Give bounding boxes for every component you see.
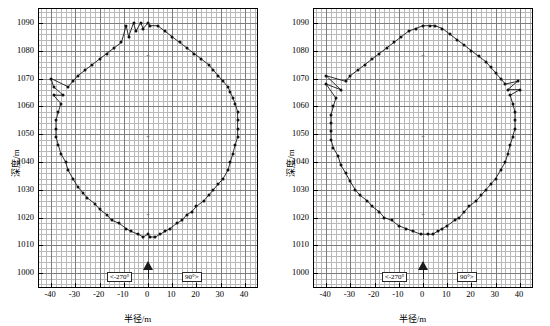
data-point xyxy=(117,222,120,225)
x-tick-mark xyxy=(447,283,448,287)
x-tick-label: 30 xyxy=(490,289,499,299)
data-point xyxy=(470,49,473,52)
data-point xyxy=(339,88,342,91)
data-point xyxy=(330,138,333,141)
y-tick-label: 1020 xyxy=(17,212,34,222)
data-point xyxy=(212,69,215,72)
plot-area: <-270°90°>+++ xyxy=(313,8,533,288)
x-tick-mark xyxy=(350,283,351,287)
data-point xyxy=(412,230,415,233)
y-tick-mark xyxy=(314,190,318,191)
data-point xyxy=(378,52,381,55)
data-point xyxy=(52,85,55,88)
data-point xyxy=(422,24,425,27)
data-point xyxy=(366,199,369,202)
data-point xyxy=(480,194,483,197)
x-tick-label: -30 xyxy=(344,289,355,299)
y-tick-mark xyxy=(39,23,43,24)
data-point xyxy=(458,216,461,219)
x-tick-mark xyxy=(124,283,125,287)
x-tick-label: 20 xyxy=(191,289,200,299)
data-point xyxy=(93,202,96,205)
data-point xyxy=(120,41,123,44)
plot-area: <-270°90°>+++ xyxy=(38,8,258,288)
x-tick-label: 10 xyxy=(442,289,451,299)
data-point xyxy=(234,144,237,147)
y-tick-label: 1090 xyxy=(17,17,34,27)
y-tick-label: 1090 xyxy=(292,17,309,27)
data-point xyxy=(62,94,65,97)
y-tick-mark xyxy=(39,190,43,191)
data-point xyxy=(132,21,135,24)
x-tick-mark xyxy=(172,283,173,287)
data-point xyxy=(494,71,497,74)
x-tick-label: 10 xyxy=(167,289,176,299)
figure-container: <-270°90°>+++100010101020103010401050106… xyxy=(0,0,550,326)
data-point xyxy=(55,135,58,138)
data-point xyxy=(55,127,58,130)
x-tick-label: 40 xyxy=(515,289,524,299)
data-point xyxy=(127,35,130,38)
x-tick-mark xyxy=(326,283,327,287)
data-point xyxy=(509,94,512,97)
data-point xyxy=(159,233,162,236)
data-point xyxy=(236,135,239,138)
data-point xyxy=(71,80,74,83)
north-arrow-stem xyxy=(423,270,424,279)
data-point xyxy=(344,172,347,175)
data-point xyxy=(154,236,157,239)
data-point xyxy=(518,88,521,91)
data-point xyxy=(419,233,422,236)
data-point xyxy=(475,199,478,202)
data-point xyxy=(217,183,220,186)
data-point xyxy=(356,69,359,72)
data-point xyxy=(164,30,167,33)
data-point xyxy=(463,210,466,213)
chart-panel-left: <-270°90°>+++100010101020103010401050106… xyxy=(0,0,275,326)
data-point xyxy=(226,169,229,172)
data-point xyxy=(383,216,386,219)
data-point xyxy=(463,44,466,47)
x-tick-label: -10 xyxy=(392,289,403,299)
data-point xyxy=(236,127,239,130)
data-point xyxy=(371,58,374,61)
y-tick-mark xyxy=(39,51,43,52)
y-tick-label: 1010 xyxy=(17,239,34,249)
y-tick-mark xyxy=(39,134,43,135)
x-tick-label: -40 xyxy=(44,289,55,299)
data-point xyxy=(81,191,84,194)
data-point xyxy=(390,219,393,222)
x-tick-label: -30 xyxy=(69,289,80,299)
data-point xyxy=(113,46,116,49)
data-point xyxy=(59,102,62,105)
data-point xyxy=(149,24,152,27)
y-tick-mark xyxy=(314,106,318,107)
data-point xyxy=(231,152,234,155)
data-point xyxy=(441,27,444,30)
x-tick-mark xyxy=(221,283,222,287)
data-point xyxy=(57,110,60,113)
data-point xyxy=(339,163,342,166)
data-point xyxy=(332,147,335,150)
data-point xyxy=(344,80,347,83)
data-point xyxy=(50,77,53,80)
data-point xyxy=(52,94,55,97)
data-point xyxy=(489,66,492,69)
y-tick-mark xyxy=(39,79,43,80)
y-tick-mark xyxy=(314,162,318,163)
data-point xyxy=(71,177,74,180)
center-cross-marker: + xyxy=(421,211,425,219)
x-tick-label: -40 xyxy=(319,289,330,299)
data-point xyxy=(226,85,229,88)
x-tick-label: -20 xyxy=(368,289,379,299)
data-point xyxy=(371,205,374,208)
y-axis-title: 深度/m xyxy=(9,149,22,177)
y-tick-mark xyxy=(39,218,43,219)
data-point xyxy=(193,52,196,55)
data-point xyxy=(229,160,232,163)
x-tick-mark xyxy=(148,283,149,287)
x-tick-mark xyxy=(423,283,424,287)
data-point xyxy=(330,122,333,125)
data-point xyxy=(142,27,145,30)
y-tick-label: 1080 xyxy=(292,45,309,55)
